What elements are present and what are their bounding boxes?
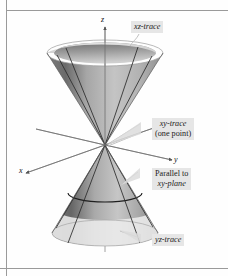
callout-yz-trace: yz-trace (152, 234, 184, 246)
y-axis-front (105, 145, 172, 160)
callout-yz-trace-text: yz-trace (155, 235, 181, 244)
callout-xz-trace: xz-trace (131, 21, 163, 33)
figure-page: z x y xz-trace xy-trace (one point) Para… (0, 0, 228, 276)
callout-xy-trace-line1: xy-trace (160, 119, 187, 128)
leader-xz-trace (130, 34, 139, 46)
callout-xy-trace: xy-trace (one point) (152, 118, 194, 140)
callout-parallel-line1: Parallel to (155, 169, 188, 179)
callout-parallel-line2: xy-plane (158, 179, 186, 188)
axis-label-z: z (101, 15, 104, 24)
lower-cone (52, 145, 158, 246)
callout-xy-trace-line2: (one point) (155, 129, 191, 139)
axis-label-y: y (174, 155, 178, 164)
y-axis-neg-front (36, 129, 105, 145)
callout-xz-trace-text: xz-trace (134, 22, 160, 31)
axis-label-x: x (19, 166, 23, 175)
callout-parallel-xy-plane: Parallel to xy-plane (152, 168, 191, 190)
